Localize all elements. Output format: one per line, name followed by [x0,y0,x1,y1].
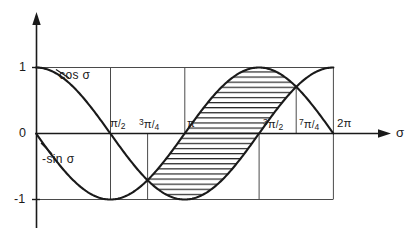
y-tick-label-minus1: -1 [14,193,25,206]
plot-canvas [0,0,420,247]
y-tick-label-0: 0 [19,127,26,140]
y-tick-label-1: 1 [19,61,26,74]
x-axis-label: σ [396,126,404,139]
x-tick-label-3pi-over-2: 3π/2 [263,118,283,131]
trigonometric-curve-figure: 1 0 -1 π/2 3π/4 π 3π/2 7π/4 2π σ cos σ -… [0,0,420,247]
tick-denominator: 2 [278,122,283,132]
shaded-area-hatch [140,50,320,210]
tick-denominator: 4 [314,122,319,132]
x-tick-label-pi: π [187,118,195,130]
x-tick-label-7pi-over-4: 7π/4 [299,118,319,131]
tick-numerator: π [187,117,195,129]
tick-denominator: 2 [121,121,126,131]
tick-numerator: π [304,118,312,130]
tick-numerator: π [144,118,152,130]
tick-numerator: π [110,117,118,129]
tick-numerator: π [268,118,276,130]
x-tick-label-pi-over-2: π/2 [110,118,125,130]
cos-curve-label: cos σ [59,69,90,81]
tick-denominator: 4 [154,122,159,132]
neg-sin-curve-label: -sin σ [42,153,74,165]
x-tick-label-2pi: 2π [337,118,351,130]
tick-numerator: π [343,117,351,129]
x-tick-label-3pi-over-4: 3π/4 [139,118,159,131]
